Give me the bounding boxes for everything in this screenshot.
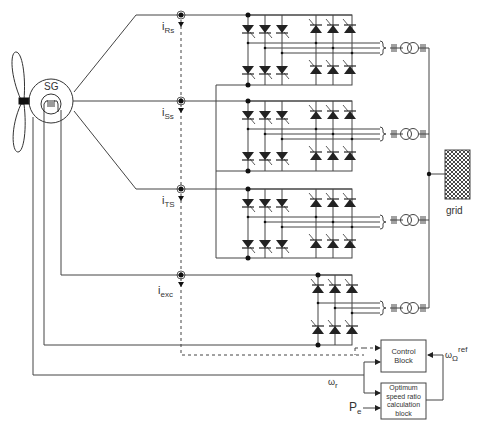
omega-subscript: Ω	[452, 354, 458, 363]
current-subscript: exc	[160, 290, 172, 299]
current-label-iexc: iexc	[158, 285, 173, 299]
thyristor-icon	[242, 19, 358, 334]
optimum-block-line3: calculation	[381, 401, 426, 410]
grid-label: grid	[446, 206, 463, 216]
optimum-block-line1: Optimum	[381, 384, 426, 393]
omega-r-label: ωr	[328, 378, 338, 390]
control-block-line2: Block	[381, 356, 426, 365]
omega-subscript: r	[335, 381, 338, 390]
current-label-irs: iRs	[162, 21, 174, 35]
omega-ref-label: ωΩref	[445, 346, 467, 363]
current-subscript: Ss	[164, 112, 173, 121]
current-label-its: iTS	[162, 195, 175, 209]
omega-symbol: ω	[445, 350, 452, 360]
control-block-label: Control Block	[381, 347, 426, 365]
transformer-icon	[390, 43, 429, 54]
omega-superscript: ref	[458, 345, 467, 354]
grid-icon	[445, 150, 470, 199]
optimum-block-line4: block	[381, 410, 426, 419]
optimum-block-label: Optimum speed ratio calculation block	[381, 384, 426, 418]
pe-symbol: P	[349, 400, 357, 414]
generator-label: SG	[44, 82, 58, 92]
current-label-iss: iSs	[162, 107, 174, 121]
pe-label: Pe	[349, 401, 361, 416]
omega-symbol: ω	[328, 377, 335, 387]
control-block-line1: Control	[381, 347, 426, 356]
current-subscript: Rs	[164, 26, 174, 35]
pe-subscript: e	[357, 407, 361, 416]
current-subscript: TS	[164, 200, 174, 209]
optimum-block-line2: speed ratio	[381, 393, 426, 402]
